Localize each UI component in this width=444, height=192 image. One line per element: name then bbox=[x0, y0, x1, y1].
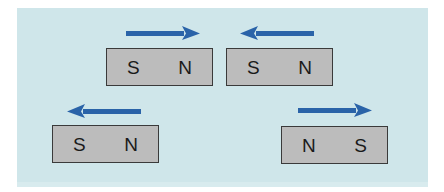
magnet-pole-left: S bbox=[247, 58, 260, 77]
magnet-pole-left: S bbox=[127, 58, 140, 77]
magnet-pole-right: N bbox=[124, 135, 138, 154]
arrow-right-icon bbox=[126, 26, 200, 40]
arrow-left-icon bbox=[67, 104, 141, 118]
bar-magnet-1: S N bbox=[106, 48, 213, 86]
magnet-pole-right: S bbox=[354, 136, 367, 155]
arrow-right-icon bbox=[298, 103, 372, 117]
bar-magnet-2: S N bbox=[226, 48, 333, 86]
magnet-pole-left: S bbox=[73, 135, 86, 154]
magnet-pole-left: N bbox=[302, 136, 316, 155]
bar-magnet-4: N S bbox=[281, 126, 388, 164]
magnet-pole-right: N bbox=[178, 58, 192, 77]
arrow-left-icon bbox=[240, 26, 314, 40]
bar-magnet-3: S N bbox=[52, 125, 159, 163]
panel-bottom-band bbox=[17, 182, 428, 187]
magnet-pole-right: N bbox=[298, 58, 312, 77]
